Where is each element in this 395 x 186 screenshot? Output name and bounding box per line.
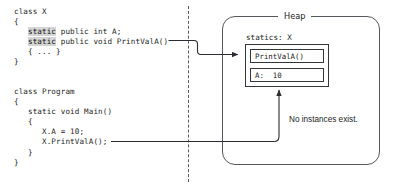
class-program-line: static void Main()	[14, 107, 112, 117]
statics-label: statics: X	[246, 33, 292, 42]
code-text: static void Main()	[14, 107, 112, 116]
class-program-line: X.A = 10;	[14, 127, 112, 137]
figure-canvas: class X{ static public int A; static pub…	[0, 0, 395, 186]
code-text: public void PrintValA()	[56, 37, 168, 46]
class-program-line: }	[14, 148, 112, 158]
code-block-class-program: class Program{ static void Main() { X.A …	[14, 87, 112, 168]
code-text: class X	[14, 7, 47, 16]
keyword-static-highlight: static	[28, 27, 56, 36]
class-x-line: class X	[14, 7, 168, 17]
code-text: class Program	[14, 87, 75, 96]
code-text: X.PrintValA();	[14, 137, 107, 146]
code-text: { ... }	[14, 47, 61, 56]
keyword-static-highlight: static	[28, 37, 56, 46]
class-x-line: { ... }	[14, 47, 168, 57]
code-text: {	[14, 117, 33, 126]
code-text: X.A = 10;	[14, 127, 84, 136]
class-program-line: {	[14, 117, 112, 127]
class-program-line: {	[14, 97, 112, 107]
code-text	[14, 27, 28, 36]
class-program-line: }	[14, 158, 112, 168]
class-x-line: {	[14, 17, 168, 27]
code-text: {	[14, 97, 19, 106]
static-field-box: A: 10	[250, 68, 324, 82]
code-text: }	[14, 158, 19, 167]
class-program-line: X.PrintValA();	[14, 137, 112, 147]
code-block-class-x: class X{ static public int A; static pub…	[14, 7, 168, 68]
code-text: {	[14, 17, 19, 26]
code-text	[14, 37, 28, 46]
class-program-line: class Program	[14, 87, 112, 97]
no-instances-note: No instances exist.	[289, 115, 358, 124]
static-method-box: PrintValA()	[250, 49, 324, 63]
class-x-line: static public int A;	[14, 27, 168, 37]
code-text: public int A;	[56, 27, 121, 36]
heap-label: Heap	[278, 11, 311, 22]
class-x-line: static public void PrintValA()	[14, 37, 168, 47]
code-text: }	[14, 148, 33, 157]
dashed-divider	[188, 6, 189, 182]
code-text: }	[14, 57, 19, 66]
class-x-line: }	[14, 57, 168, 67]
